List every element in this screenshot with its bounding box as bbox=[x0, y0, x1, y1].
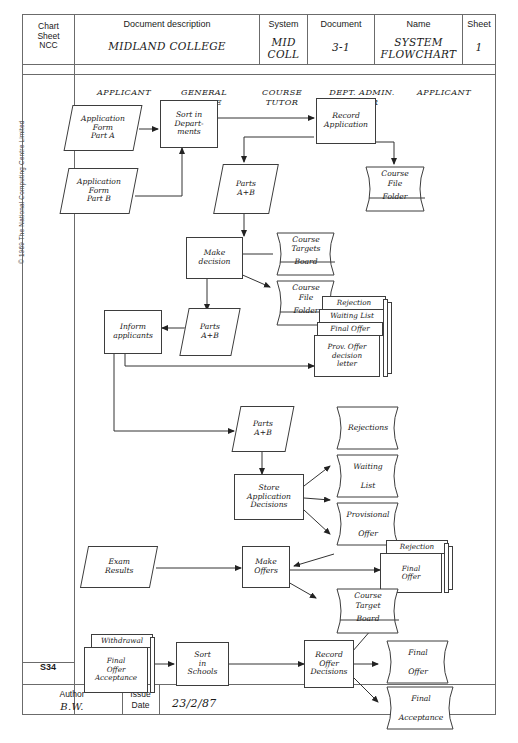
node-line: Course bbox=[381, 169, 408, 178]
node-line: Acceptance bbox=[95, 674, 137, 682]
system-value-line1: MID bbox=[260, 36, 307, 48]
sheet-number-value: 1 bbox=[463, 41, 495, 53]
name-label: Name bbox=[375, 19, 462, 29]
node-line: Part B bbox=[87, 194, 111, 203]
stack-sheet-rejection: Rejection bbox=[386, 540, 448, 554]
node-line: Decisions bbox=[251, 500, 288, 509]
flowchart-canvas: APPLICANT GENERAL OFFICE COURSE TUTOR DE… bbox=[22, 74, 496, 666]
chart-sheet-ncc-cell: Chart Sheet NCC bbox=[24, 22, 73, 51]
node-course-target-board[interactable]: Course Target Board bbox=[328, 588, 408, 634]
node-line: Offers bbox=[254, 566, 278, 575]
stack-edge bbox=[150, 637, 155, 693]
node-line: Rejections bbox=[348, 423, 388, 432]
node-line: Application bbox=[324, 120, 368, 129]
node-withdrawal-acceptance-document[interactable]: Withdrawal Final Offer Acceptance bbox=[84, 634, 166, 696]
node-line: Schools bbox=[188, 667, 218, 676]
stack-sheet-final-offer-acceptance: Final Offer Acceptance bbox=[84, 647, 148, 693]
node-final-acceptance-file[interactable]: Final Acceptance bbox=[378, 686, 464, 730]
node-make-decision[interactable]: Make decision bbox=[186, 237, 243, 279]
sheet-number-label: Sheet bbox=[463, 19, 495, 29]
node-line: Targets bbox=[292, 244, 321, 253]
node-line: Final bbox=[411, 694, 431, 703]
system-label: System bbox=[260, 19, 307, 29]
node-sort-in-schools[interactable]: Sort in Schools bbox=[176, 642, 229, 686]
node-line: File bbox=[299, 293, 314, 302]
node-line: A+B bbox=[201, 331, 218, 340]
file-label: Course Target Board bbox=[328, 588, 408, 634]
stack-sheet-withdrawal: Withdrawal bbox=[91, 634, 153, 648]
document-description-value: MIDLAND COLLEGE bbox=[75, 40, 259, 52]
node-course-file-folder-1[interactable]: Course File Folder bbox=[356, 166, 434, 212]
node-line: Acceptance bbox=[399, 713, 444, 722]
node-line: Final bbox=[408, 648, 428, 657]
node-record-application[interactable]: Record Application bbox=[316, 98, 376, 144]
file-label: Course File Folder bbox=[356, 166, 434, 212]
node-divider-line: Board bbox=[268, 257, 344, 266]
node-inform-applicants[interactable]: Inform applicants bbox=[104, 310, 162, 354]
date-label: Date bbox=[123, 701, 158, 711]
node-line: Provisional bbox=[347, 510, 390, 519]
stack-sheet-prov-offer-letter: Prov. Offer decision letter bbox=[314, 335, 380, 377]
node-application-form-part-b[interactable]: Application Form Part B bbox=[60, 168, 139, 214]
file-label: Final Acceptance bbox=[378, 686, 464, 730]
node-line: List bbox=[361, 481, 375, 490]
document-number-value: 3-1 bbox=[308, 41, 374, 53]
node-waiting-list[interactable]: Waiting List bbox=[328, 454, 408, 498]
node-record-offer-decisions[interactable]: Record Offer Decisions bbox=[304, 640, 354, 688]
node-store-application-decisions[interactable]: Store Application Decisions bbox=[234, 474, 304, 520]
node-line: Course bbox=[354, 591, 381, 600]
system-value-line2: COLL bbox=[260, 48, 307, 60]
node-line: Course bbox=[292, 283, 319, 292]
node-line: A+B bbox=[237, 188, 254, 197]
node-line: Target bbox=[355, 601, 380, 610]
node-letters-stack[interactable]: Rejection Waiting List Final Offer Prov.… bbox=[314, 296, 404, 386]
node-sort-in-departments[interactable]: Sort in Depart- ments bbox=[160, 100, 218, 148]
node-divider-line: Board bbox=[328, 614, 408, 623]
document-number-label: Document bbox=[308, 19, 374, 29]
author-value: B.W. bbox=[24, 701, 120, 712]
node-line: Offer bbox=[408, 667, 428, 676]
node-line: Decisions bbox=[311, 667, 348, 676]
stack-sheet-rejection: Rejection bbox=[322, 296, 386, 310]
frame-line bbox=[22, 64, 496, 65]
file-label: Course Targets Board bbox=[268, 232, 344, 276]
stack-sheet-waiting-list: Waiting List bbox=[319, 309, 385, 323]
file-label: Rejections bbox=[328, 406, 408, 450]
node-line: Results bbox=[105, 566, 133, 575]
file-label: Waiting List bbox=[328, 454, 408, 498]
node-course-targets-board[interactable]: Course Targets Board bbox=[268, 232, 344, 276]
node-line: letter bbox=[337, 360, 357, 368]
node-final-offer-file[interactable]: Final Offer bbox=[378, 640, 458, 684]
node-line: applicants bbox=[113, 331, 153, 340]
stack-sheet-final-offer: Final Offer bbox=[380, 553, 442, 593]
node-make-offers[interactable]: Make Offers bbox=[242, 546, 290, 588]
node-line: Offer bbox=[402, 573, 421, 581]
document-description-label: Document description bbox=[75, 19, 259, 29]
node-parts-ab-2[interactable]: Parts A+B bbox=[179, 308, 240, 356]
stack-edge bbox=[387, 302, 392, 374]
stack-sheet-final-offer: Final Offer bbox=[317, 322, 383, 336]
ncc-label: NCC bbox=[24, 41, 73, 51]
node-line: decision bbox=[199, 257, 231, 266]
name-value-line1: SYSTEM bbox=[375, 36, 462, 48]
node-line: Part A bbox=[91, 131, 115, 140]
node-line: File bbox=[388, 179, 403, 188]
node-line: Offer bbox=[358, 529, 378, 538]
node-parts-ab-1[interactable]: Parts A+B bbox=[213, 164, 279, 214]
node-line: ments bbox=[177, 127, 201, 136]
node-line: A+B bbox=[254, 428, 271, 437]
chart-sheet: Chart Sheet NCC Document description MID… bbox=[22, 14, 496, 714]
issue-date-value: 23/2/87 bbox=[172, 697, 282, 710]
node-rejections[interactable]: Rejections bbox=[328, 406, 408, 450]
node-line: Course bbox=[292, 235, 319, 244]
node-parts-ab-3[interactable]: Parts A+B bbox=[232, 406, 295, 452]
node-exam-results[interactable]: Exam Results bbox=[80, 546, 158, 588]
file-label: Final Offer bbox=[378, 640, 458, 684]
node-application-form-part-a[interactable]: Application Form Part A bbox=[64, 105, 143, 151]
node-divider-line: Folder bbox=[356, 192, 434, 201]
stack-edge bbox=[448, 546, 453, 590]
node-line: Waiting bbox=[353, 462, 382, 471]
name-value-line2: FLOWCHART bbox=[375, 48, 462, 60]
